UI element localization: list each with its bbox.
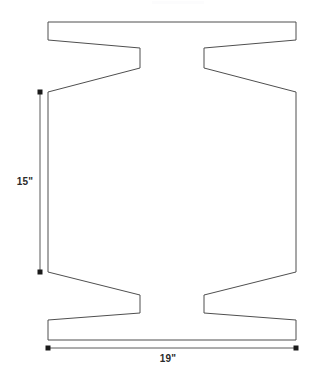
height-dimension-endpoint-bottom	[38, 270, 43, 275]
width-dimension-endpoint-left	[46, 346, 51, 351]
width-dimension-endpoint-right	[294, 346, 299, 351]
height-dimension-group	[38, 90, 43, 275]
drawing-vector-layer	[0, 0, 313, 380]
width-dimension-group	[46, 346, 299, 351]
part-outline-shape	[48, 22, 296, 340]
technical-drawing-canvas: 15" 19"	[0, 0, 313, 380]
height-dimension-label: 15"	[13, 176, 37, 187]
height-dimension-endpoint-top	[38, 90, 43, 95]
width-dimension-label: 19"	[148, 353, 188, 364]
